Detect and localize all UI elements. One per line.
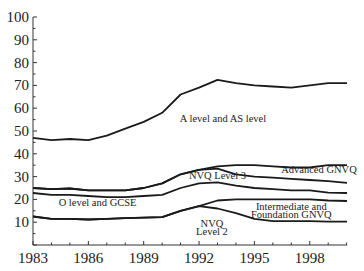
annotation-label: NVQ Level 3 [189,170,246,181]
x-tick-label: 1992 [184,250,214,266]
y-tick-label: 40 [14,146,29,162]
line-chart: 1020304050607080901001983198619891992199… [0,0,364,271]
annotation-label: Advanced GNVQ [281,164,357,175]
x-tick-label: 1998 [295,250,325,266]
x-tick-label: 1986 [73,250,104,266]
axes: 1020304050607080901001983198619891992199… [7,9,348,266]
y-tick-label: 20 [14,191,29,207]
y-tick-label: 50 [14,123,29,139]
annotation-label: Foundation GNVQ [251,209,332,220]
y-tick-label: 100 [7,9,30,25]
series-line-0 [33,80,347,140]
y-tick-label: 10 [14,214,29,230]
y-tick-label: 60 [14,100,29,116]
y-tick-label: 90 [14,32,29,48]
annotation-label: O level and GCSE [59,197,137,208]
y-tick-label: 70 [14,77,29,93]
annotation-label: A level and AS level [180,113,266,124]
annotation-label: Level 2 [196,226,228,237]
x-tick-label: 1983 [18,250,48,266]
x-tick-label: 1995 [239,250,269,266]
x-tick-label: 1989 [129,250,159,266]
y-tick-label: 30 [14,169,29,185]
y-tick-label: 80 [14,55,29,71]
